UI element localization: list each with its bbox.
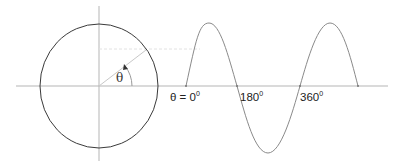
tick-180 [236,85,238,87]
degree-mark: 0 [196,90,200,97]
label-180-text: 180 [240,91,259,103]
label-0-degrees: θ = 00 [170,90,200,104]
sine-wave [186,23,358,153]
angle-label: θ [116,71,123,85]
label-360-text: 360 [300,91,319,103]
degree-mark: 0 [319,90,323,97]
label-0-text: θ = 0 [170,91,196,103]
degree-mark: 0 [259,90,263,97]
label-180-degrees: 1800 [240,90,263,104]
tick-end [357,85,359,87]
phasor-diagram [0,0,401,165]
tick-360 [299,85,301,87]
tick-0 [185,85,187,87]
label-360-degrees: 3600 [300,90,323,104]
